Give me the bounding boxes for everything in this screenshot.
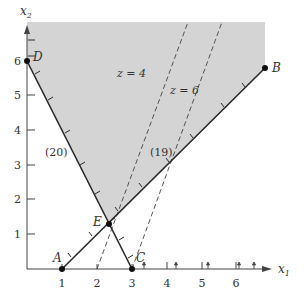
svg-text:5: 5 (14, 89, 21, 102)
point-d (24, 58, 30, 64)
svg-text:3: 3 (14, 159, 21, 172)
x-axis-label: x1 (278, 262, 290, 278)
x-axis-hatch-arrows (143, 262, 256, 269)
svg-text:(20): (20) (45, 146, 68, 159)
y-axis-label: x2 (20, 4, 32, 20)
svg-text:z = 6: z = 6 (169, 84, 199, 97)
svg-text:2: 2 (14, 193, 21, 206)
svg-text:D: D (32, 50, 43, 64)
svg-text:(19): (19) (150, 146, 173, 159)
y-tick-labels: 1 2 3 4 5 6 (14, 55, 21, 241)
svg-text:1: 1 (14, 228, 21, 241)
feasible-region (27, 22, 265, 224)
svg-text:B: B (271, 61, 281, 75)
svg-text:1: 1 (59, 277, 66, 290)
svg-text:4: 4 (14, 124, 21, 137)
y-ticks (27, 95, 35, 234)
svg-text:6: 6 (14, 55, 21, 68)
x-ticks (62, 262, 236, 269)
svg-text:A: A (52, 251, 62, 265)
x-tick-labels: 1 2 3 4 5 6 (59, 277, 240, 290)
svg-text:C: C (136, 251, 145, 265)
svg-text:3: 3 (129, 277, 136, 290)
point-e (106, 221, 112, 227)
svg-text:5: 5 (199, 277, 206, 290)
point-b (262, 65, 268, 71)
svg-text:z = 4: z = 4 (116, 67, 146, 80)
svg-text:2: 2 (94, 277, 101, 290)
point-a (59, 266, 65, 272)
lp-diagram: 1 2 3 4 5 6 1 2 3 4 5 6 x2 x1 D B E A C … (0, 0, 308, 305)
point-c (129, 266, 135, 272)
svg-text:E: E (92, 215, 102, 229)
svg-text:4: 4 (164, 277, 171, 290)
svg-text:6: 6 (233, 277, 240, 290)
x-axis-arrow-icon (262, 266, 272, 272)
